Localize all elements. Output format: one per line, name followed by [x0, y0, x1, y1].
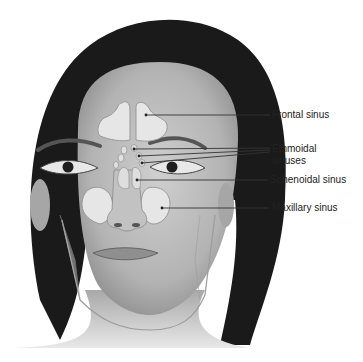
sphenoidal-sinus-left	[118, 167, 129, 188]
label-ethmoidal-sinuses: Ethmoidal sinuses	[272, 143, 316, 167]
left-nostril	[114, 223, 122, 227]
right-nostril	[132, 223, 140, 227]
left-ear	[30, 179, 50, 231]
right-ear	[218, 183, 234, 227]
label-ethmoidal-line1: Ethmoidal	[272, 143, 316, 155]
label-frontal-sinus: Frontal sinus	[272, 109, 329, 121]
label-ethmoidal-line2: sinuses	[272, 155, 316, 167]
sinus-diagram: Frontal sinus Ethmoidal sinuses Sphenoid…	[0, 0, 363, 362]
sphenoidal-sinus-right	[132, 167, 141, 188]
label-sphenoidal-sinus: Sphenoidal sinus	[270, 174, 346, 186]
label-maxillary-sinus: Maxillary sinus	[272, 202, 338, 214]
